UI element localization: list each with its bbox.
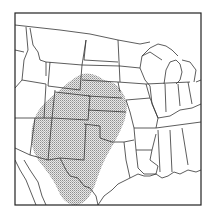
us-map <box>0 0 215 220</box>
map-container <box>0 0 215 220</box>
